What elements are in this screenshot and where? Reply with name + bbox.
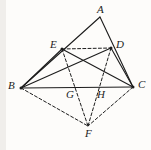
- solid-segments-layer: [21, 17, 133, 88]
- vertex-dot-b: [20, 87, 23, 90]
- vertex-label-e: E: [50, 39, 57, 50]
- vertex-label-g: G: [66, 89, 74, 100]
- vertex-dot-c: [132, 86, 135, 89]
- geometry-canvas: [0, 0, 151, 150]
- vertex-label-d: D: [116, 39, 124, 50]
- segment-BC: [21, 87, 133, 88]
- vertex-label-f: F: [85, 128, 92, 139]
- vertex-label-c: C: [138, 79, 145, 90]
- segment-ED: [62, 48, 111, 49]
- vertex-label-h: H: [97, 89, 105, 100]
- segment-BF: [21, 88, 88, 126]
- vertex-dot-d: [110, 47, 113, 50]
- vertex-label-b: B: [8, 80, 15, 91]
- vertex-dot-e: [61, 48, 64, 51]
- vertex-label-a: A: [97, 4, 104, 15]
- segment-AC: [100, 17, 133, 87]
- geometry-figure: ABCDEFGH: [0, 0, 151, 150]
- segment-CF: [88, 87, 133, 126]
- segment-BE: [21, 49, 62, 88]
